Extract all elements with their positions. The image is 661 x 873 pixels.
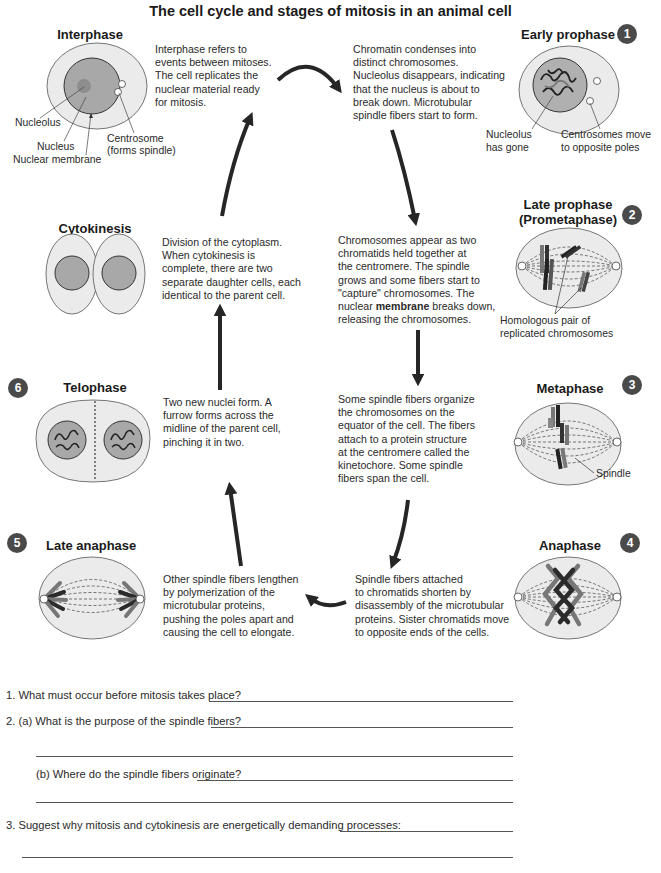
arrow-early-prophase-to-late-prophase	[392, 130, 415, 220]
arrow-late-anaphase-to-telophase	[230, 488, 241, 566]
arrow-metaphase-to-anaphase	[393, 500, 408, 563]
answer-line-q2b-1[interactable]	[197, 780, 513, 781]
answer-line-q3-1[interactable]	[340, 831, 513, 832]
question-2b: (b) Where do the spindle fibers originat…	[36, 768, 241, 780]
arrow-cytokinesis-to-interphase	[222, 118, 250, 216]
cycle-arrows	[0, 0, 661, 873]
question-1: 1. What must occur before mitosis takes …	[6, 689, 241, 701]
answer-line-q2a-1[interactable]	[211, 727, 513, 728]
question-2a: 2. (a) What is the purpose of the spindl…	[6, 715, 241, 727]
answer-line-q1[interactable]	[209, 701, 513, 702]
answer-line-q3-2[interactable]	[22, 857, 513, 858]
answer-line-q2a-2[interactable]	[36, 756, 513, 757]
arrow-anaphase-to-late-anaphase	[310, 598, 346, 605]
answer-line-q2b-2[interactable]	[36, 802, 513, 803]
arrow-interphase-to-early-prophase	[278, 67, 338, 88]
question-3: 3. Suggest why mitosis and cytokinesis a…	[6, 819, 401, 831]
